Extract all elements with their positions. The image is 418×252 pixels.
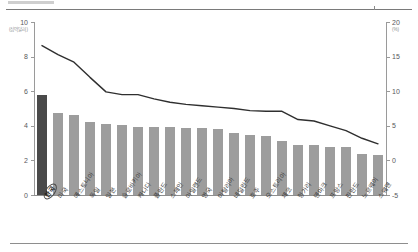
- right-axis-line: [386, 22, 387, 195]
- bar: [69, 115, 79, 195]
- right-axis-unit: (%): [392, 28, 416, 33]
- header-tab-mark: [8, 1, 54, 4]
- header-rule-tick: [374, 6, 375, 10]
- left-axis-tick-label: 2: [6, 157, 28, 164]
- footer-rule: [10, 243, 408, 244]
- bar: [37, 95, 47, 195]
- left-axis-unit: (십억달러): [6, 28, 28, 33]
- right-axis-tick: [387, 195, 390, 196]
- right-axis-tick-label: 5: [392, 122, 416, 129]
- right-axis-tick: [387, 126, 390, 127]
- chart-figure: 1086420 20151050-5 (십억달러) (%) 한국미국에스토니아독…: [0, 0, 418, 252]
- plot-area: 1086420 20151050-5 (십억달러) (%): [34, 22, 386, 195]
- bar: [101, 124, 111, 195]
- left-axis-tick-label: 6: [6, 88, 28, 95]
- right-axis-tick-label: -5: [392, 192, 416, 199]
- left-axis-tick-label: 0: [6, 192, 28, 199]
- right-axis-tick-label: 15: [392, 53, 416, 60]
- category-axis-labels: 한국미국에스토니아독일일본슬로바키아캐나다폴란드스페인아일랜드영국이탈리아네덜란…: [34, 196, 386, 242]
- right-axis-tick: [387, 57, 390, 58]
- left-axis-tick-label: 8: [6, 53, 28, 60]
- right-axis-tick: [387, 91, 390, 92]
- left-axis-tick-label: 4: [6, 122, 28, 129]
- right-axis-tick: [387, 22, 390, 23]
- right-axis-tick: [387, 160, 390, 161]
- left-axis-tick-label: 10: [6, 19, 28, 26]
- right-axis-tick-label: 20: [392, 19, 416, 26]
- bar: [117, 125, 127, 195]
- right-axis-tick-label: 10: [392, 88, 416, 95]
- bar-series: [34, 22, 386, 195]
- bar: [213, 129, 223, 195]
- right-axis-tick-label: 0: [392, 157, 416, 164]
- header-rule: [6, 9, 412, 10]
